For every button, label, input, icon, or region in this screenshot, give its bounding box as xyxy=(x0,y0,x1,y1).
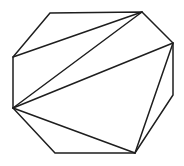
diagonal-left-lower-to-top-right xyxy=(13,12,142,108)
triangulation-svg xyxy=(0,0,184,166)
polygon-outline xyxy=(13,12,173,153)
polygon-triangulation-figure xyxy=(0,0,184,166)
diagonal-left-lower-to-bottom-right xyxy=(13,108,135,153)
diagonal-left-lower-to-right-upper xyxy=(13,43,173,108)
diagonal-bottom-right-to-right-upper xyxy=(135,43,173,153)
